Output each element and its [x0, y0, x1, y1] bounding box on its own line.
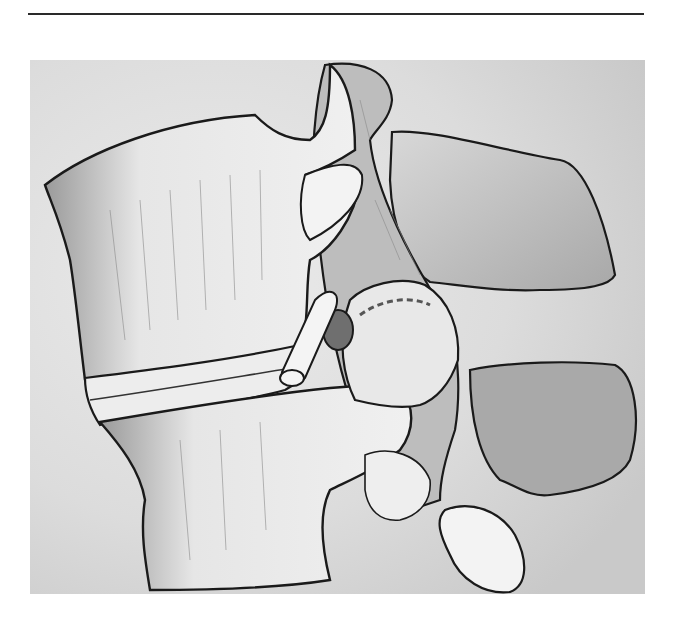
- top-horizontal-rule: [28, 13, 644, 15]
- nerve-root-cut-end: [280, 370, 304, 386]
- vertebrae-illustration: [30, 60, 645, 594]
- lower-transverse-process: [470, 362, 636, 495]
